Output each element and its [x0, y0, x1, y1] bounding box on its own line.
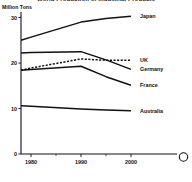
series-label-japan: Japan [140, 13, 156, 19]
x-tick-label: 2000 [125, 159, 137, 165]
y-tick-labels: 0102030 [11, 15, 17, 157]
x-tick-labels: 198019902000 [25, 159, 137, 165]
y-tick-label: 30 [11, 15, 17, 21]
series-label-france: France [140, 82, 158, 88]
circle-glyph [179, 153, 187, 161]
chart-canvas: 0102030 198019902000 JapanGermanyUKFranc… [0, 0, 192, 182]
x-tick-label: 1990 [75, 159, 87, 165]
tick-group [18, 18, 131, 157]
series-lines [21, 16, 131, 111]
series-line-japan [21, 16, 131, 40]
series-labels: JapanGermanyUKFranceAustralia [140, 13, 164, 114]
series-label-uk: UK [140, 57, 148, 63]
series-label-australia: Australia [140, 108, 164, 114]
series-line-france [21, 66, 131, 85]
y-tick-label: 20 [11, 60, 17, 66]
series-line-australia [21, 106, 131, 111]
y-tick-label: 10 [11, 106, 17, 112]
x-tick-label: 1980 [25, 159, 37, 165]
series-label-germany: Germany [140, 66, 163, 72]
line-chart: World Production of Industrial Products … [0, 0, 192, 182]
y-tick-label: 0 [14, 151, 17, 157]
